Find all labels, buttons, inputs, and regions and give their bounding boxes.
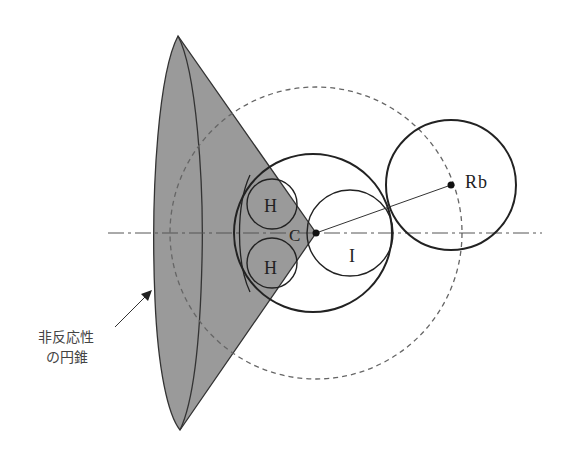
H-upper-label: H [264,196,277,216]
C-center-point [313,230,320,237]
I-label: I [349,246,355,266]
C-label: C [289,226,300,245]
cone-label-line2: の円錐 [46,349,88,365]
Rb-label: Rb [465,172,488,192]
H-lower-label: H [264,258,277,278]
Rb-center-point [448,182,455,189]
cone-label-line1: 非反応性 [38,329,94,345]
reaction-geometry-diagram: H H C I Rb 非反応性 の円錐 [0,0,563,452]
cone-label-arrow [115,294,148,327]
